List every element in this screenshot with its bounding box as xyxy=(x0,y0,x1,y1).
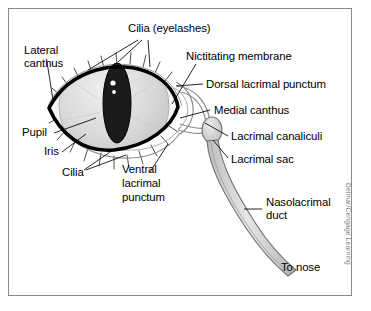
label-nasolacrimal-duct-line2: duct xyxy=(266,209,287,222)
label-ventral-lacrimal-punctum-line2: lacrimal xyxy=(122,177,160,190)
label-ventral-lacrimal-punctum-line3: punctum xyxy=(122,191,165,204)
label-dorsal-lacrimal-punctum: Dorsal lacrimal punctum xyxy=(206,78,326,91)
label-lateral-canthus-line1: Lateral xyxy=(24,44,58,57)
label-medial-canthus: Medial canthus xyxy=(214,104,289,117)
pupil-highlight-upper xyxy=(110,80,115,85)
label-lacrimal-canaliculi: Lacrimal canaliculi xyxy=(231,130,322,143)
figure-canvas: Cilia (eyelashes) Lateral canthus Nictit… xyxy=(0,0,371,311)
lacrimal-sac xyxy=(202,117,222,143)
label-lateral-canthus-line2: canthus xyxy=(24,57,63,70)
label-iris: Iris xyxy=(44,145,59,158)
label-nasolacrimal-duct-line1: Nasolacrimal xyxy=(266,196,331,209)
label-pupil: Pupil xyxy=(22,126,47,139)
label-to-nose: To nose xyxy=(281,261,320,274)
pupil-highlight-lower xyxy=(112,90,116,94)
label-lacrimal-sac: Lacrimal sac xyxy=(231,153,294,166)
label-cilia: Cilia xyxy=(62,166,84,179)
label-cilia-eyelashes: Cilia (eyelashes) xyxy=(128,22,211,35)
label-ventral-lacrimal-punctum-line1: Ventral xyxy=(122,163,157,176)
attribution-credit: Delmar/Cengage Learning xyxy=(345,183,352,287)
label-nictitating-membrane: Nictitating membrane xyxy=(186,50,292,63)
